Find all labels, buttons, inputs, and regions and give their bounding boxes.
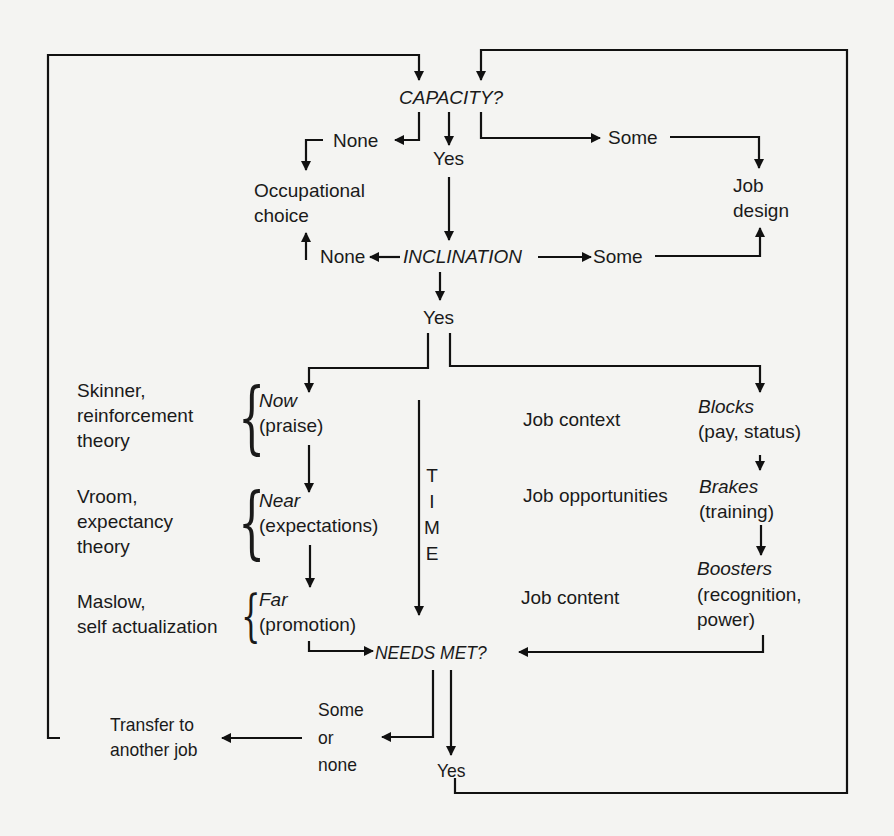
job-opportunities-label: Job opportunities bbox=[523, 483, 668, 508]
job-content-label: Job content bbox=[521, 585, 619, 610]
reward-far-detail: (promotion) bbox=[259, 612, 356, 637]
brakes-detail: (training) bbox=[699, 499, 774, 524]
reward-far-title: Far bbox=[259, 587, 288, 612]
needs-met-yes-label: Yes bbox=[437, 758, 466, 783]
brace-icon: { bbox=[241, 588, 261, 644]
reward-near-detail: (expectations) bbox=[259, 513, 378, 538]
inclination-some-label: Some bbox=[593, 244, 643, 269]
capacity-decision: CAPACITY? bbox=[399, 85, 503, 110]
reward-near-title: Near bbox=[259, 488, 300, 513]
boosters-title: Boosters bbox=[697, 556, 772, 581]
some-or-none-line1: Some bbox=[318, 697, 364, 722]
reward-now-detail: (praise) bbox=[259, 413, 323, 438]
needs-met-decision: NEEDS MET? bbox=[375, 640, 487, 665]
transfer-line1: Transfer to bbox=[110, 712, 194, 737]
theory-skinner-line2: reinforcement bbox=[77, 403, 193, 428]
time-letter: T bbox=[422, 463, 442, 489]
brakes-title: Brakes bbox=[699, 474, 758, 499]
theory-skinner-line1: Skinner, bbox=[77, 378, 146, 403]
reward-now-title: Now bbox=[259, 388, 297, 413]
inclination-none-label: None bbox=[320, 244, 365, 269]
job-design-line2: design bbox=[733, 198, 789, 223]
capacity-none-label: None bbox=[333, 128, 378, 153]
inclination-decision: INCLINATION bbox=[403, 244, 522, 269]
job-context-label: Job context bbox=[523, 407, 620, 432]
some-or-none-line3: none bbox=[318, 752, 357, 777]
time-letter: M bbox=[422, 515, 442, 541]
theory-maslow-line1: Maslow, bbox=[77, 589, 146, 614]
inclination-yes-label: Yes bbox=[423, 305, 454, 330]
boosters-detail-line2: power) bbox=[697, 607, 755, 632]
boosters-detail-line1: (recognition, bbox=[697, 582, 802, 607]
capacity-yes-label: Yes bbox=[433, 146, 464, 171]
time-letter: I bbox=[422, 489, 442, 515]
theory-vroom-line2: expectancy bbox=[77, 509, 173, 534]
blocks-detail: (pay, status) bbox=[698, 419, 801, 444]
occupational-choice-line1: Occupational bbox=[254, 178, 365, 203]
theory-maslow-line2: self actualization bbox=[77, 614, 217, 639]
job-design-line1: Job bbox=[733, 173, 764, 198]
some-or-none-line2: or bbox=[318, 725, 334, 750]
capacity-some-label: Some bbox=[608, 125, 658, 150]
time-letter: E bbox=[422, 541, 442, 567]
theory-skinner-line3: theory bbox=[77, 428, 130, 453]
occupational-choice-line2: choice bbox=[254, 203, 309, 228]
theory-vroom-line1: Vroom, bbox=[77, 484, 138, 509]
blocks-title: Blocks bbox=[698, 394, 754, 419]
theory-vroom-line3: theory bbox=[77, 534, 130, 559]
motivation-flowchart: CAPACITY? INCLINATION NEEDS MET? None Ye… bbox=[0, 0, 894, 836]
transfer-line2: another job bbox=[110, 737, 197, 762]
